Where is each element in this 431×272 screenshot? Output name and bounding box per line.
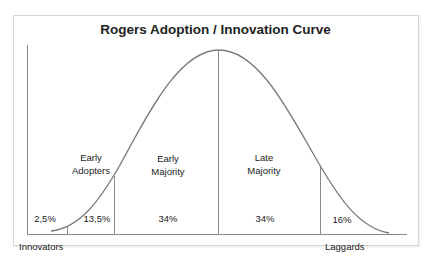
percent-late-majority: 34% (250, 213, 280, 224)
percent-innovators: 2,5% (30, 213, 60, 224)
percent-early-majority: 34% (153, 213, 183, 224)
label-line: Majority (239, 164, 289, 177)
label-laggards: Laggards (325, 241, 365, 252)
percent-laggards: 16% (327, 214, 357, 225)
segment-label-late-majority: Late Majority (239, 151, 289, 177)
label-innovators: Innovators (19, 241, 63, 252)
segment-label-early-adopters: Early Adopters (66, 151, 116, 177)
label-line: Late (239, 151, 289, 164)
label-line: Majority (143, 165, 193, 178)
bell-curve (51, 50, 389, 233)
label-line: Early (143, 152, 193, 165)
label-line: Adopters (66, 164, 116, 177)
percent-early-adopters: 13,5% (80, 213, 114, 224)
adoption-curve-plot (0, 0, 431, 272)
segment-label-early-majority: Early Majority (143, 152, 193, 178)
label-line: Early (66, 151, 116, 164)
